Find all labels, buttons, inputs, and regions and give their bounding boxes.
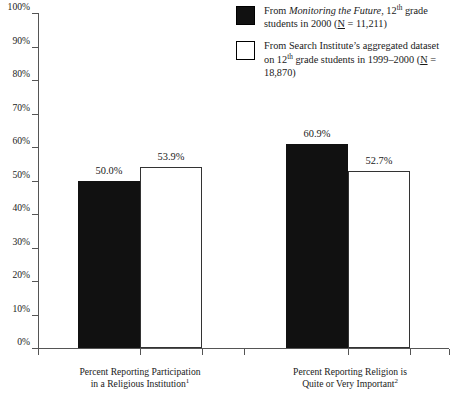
- x-axis-tick: [410, 349, 411, 355]
- x-axis-tick: [449, 349, 450, 355]
- footnote-marker: 1: [186, 377, 189, 384]
- bar-value-label: 60.9%: [280, 128, 354, 139]
- category-label-religion-important: Percent Reporting Religion is Quite or V…: [252, 366, 448, 391]
- bar-open: [348, 171, 410, 348]
- x-axis-tick: [202, 349, 203, 355]
- footnote-marker: 2: [394, 377, 397, 384]
- x-axis-tick: [348, 349, 349, 355]
- x-axis-tick: [244, 349, 245, 355]
- bar-open: [140, 167, 202, 348]
- bar-value-label: 53.9%: [134, 151, 208, 162]
- bar-value-label: 50.0%: [72, 165, 146, 176]
- x-axis-tick: [38, 349, 39, 355]
- bar-filled: [286, 144, 348, 348]
- x-axis-tick: [140, 349, 141, 355]
- bar-value-label: 52.7%: [342, 155, 416, 166]
- category-label-religious-participation: Percent Reporting Participation in a Rel…: [44, 366, 236, 391]
- bars-layer: [0, 0, 461, 348]
- bar-filled: [78, 181, 140, 349]
- bar-chart-figure: From Monitoring the Future, 12th grade s…: [0, 0, 461, 397]
